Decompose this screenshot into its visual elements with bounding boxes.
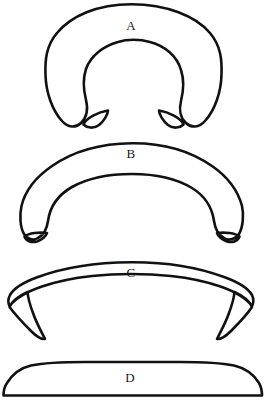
shape-a-label: A — [126, 18, 136, 33]
shape-b-label: B — [127, 146, 136, 161]
shape-c-label: C — [127, 265, 136, 280]
shape-d-label: D — [125, 370, 135, 385]
shapes-figure: A B C D — [0, 0, 266, 411]
shape-group-d: D — [4, 362, 263, 396]
